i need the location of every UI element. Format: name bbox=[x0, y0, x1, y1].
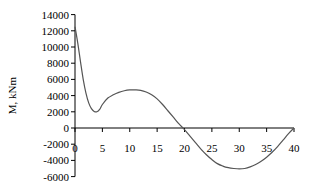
y-tick-label: 2000 bbox=[47, 106, 70, 118]
y-tick-label: 12000 bbox=[42, 25, 70, 37]
y-tick-label: -2000 bbox=[43, 138, 69, 150]
moment-chart: M, kNm 14000120001000080006000400020000-… bbox=[0, 0, 316, 192]
x-tick-label: 30 bbox=[234, 142, 246, 154]
x-tick-label: 25 bbox=[206, 142, 218, 154]
y-tick-label: 14000 bbox=[42, 9, 70, 21]
x-tick-label: 0 bbox=[72, 142, 78, 154]
y-tick-label: 6000 bbox=[47, 73, 70, 85]
y-tick-label: -6000 bbox=[43, 171, 69, 183]
y-tick-label: 0 bbox=[64, 122, 70, 134]
y-axis-label: M, kNm bbox=[6, 77, 18, 115]
y-axis: 14000120001000080006000400020000-2000-40… bbox=[42, 9, 76, 183]
x-tick-label: 15 bbox=[152, 142, 164, 154]
y-axis-title: M, kNm bbox=[6, 77, 18, 115]
y-tick-label: 4000 bbox=[47, 90, 70, 102]
x-tick-label: 40 bbox=[289, 142, 301, 154]
x-tick-label: 5 bbox=[100, 142, 106, 154]
y-tick-label: 10000 bbox=[42, 41, 70, 53]
x-tick-label: 10 bbox=[124, 142, 136, 154]
y-tick-label: 8000 bbox=[47, 57, 70, 69]
x-tick-label: 20 bbox=[179, 142, 191, 154]
x-tick-label: 35 bbox=[261, 142, 273, 154]
y-tick-label: -4000 bbox=[43, 154, 69, 166]
